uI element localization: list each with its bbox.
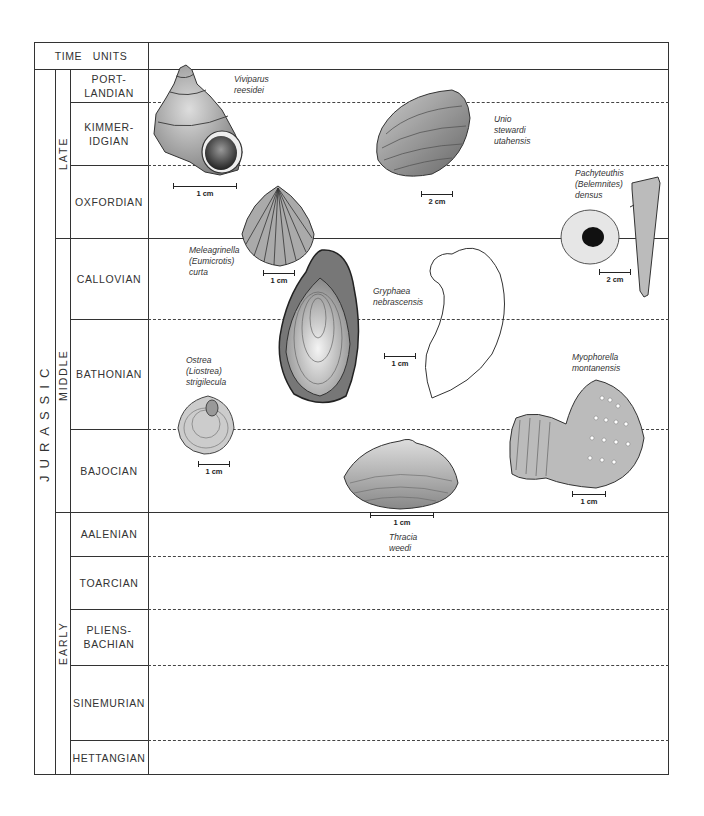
belemnite-guard-illustration	[628, 175, 664, 299]
belemnite-cross-section-illustration	[559, 208, 621, 266]
scale-bar-pachyteuthis: 2 cm	[599, 272, 631, 284]
scale-label: 1 cm	[580, 497, 597, 506]
stage-hettangian: HETTANGIAN	[70, 740, 148, 775]
header-time-units: TIME UNITS	[34, 42, 148, 69]
scale-bar-viviparus: 1 cm	[173, 186, 237, 198]
species-label-gryphaea: Gryphaea nebrascensis	[373, 286, 423, 308]
stage-bajocian: BAJOCIAN	[70, 429, 148, 512]
stage-bathonian: BATHONIAN	[70, 319, 148, 429]
epoch-label-middle: MIDDLE	[55, 238, 70, 512]
epoch-label-early: EARLY	[55, 512, 70, 775]
gryphaea-shell-illustration	[276, 248, 366, 406]
myophorella-shell-illustration	[506, 378, 646, 490]
scale-label: 1 cm	[205, 467, 222, 476]
stage-boundary-dashed	[148, 665, 669, 666]
scale-label: 2 cm	[606, 275, 623, 284]
unio-clam-illustration	[372, 88, 472, 180]
species-label-unio: Unio stewardi utahensis	[494, 114, 530, 147]
epoch-label-late: LATE	[55, 69, 70, 238]
stage-sinemurian: SINEMURIAN	[70, 665, 148, 740]
scale-bar-ostrea: 1 cm	[198, 464, 230, 476]
scale-bar-gryphaea: 1 cm	[384, 356, 416, 368]
species-label-pachyteuthis: Pachyteuthis (Belemnites) densus	[575, 168, 624, 201]
stage-oxfordian: OXFORDIAN	[70, 165, 148, 238]
scale-label: 1 cm	[196, 189, 213, 198]
species-label-myophorella: Myophorella montanensis	[572, 352, 620, 374]
stage-pliensbachian: PLIENS- BACHIAN	[70, 609, 148, 665]
stage-kimmeridgian: KIMMER- IDGIAN	[70, 102, 148, 165]
stage-aalenian: AALENIAN	[70, 512, 148, 556]
ostrea-shell-illustration	[176, 394, 236, 456]
scale-label: 2 cm	[428, 197, 445, 206]
stage-boundary-dashed	[148, 556, 669, 557]
scale-label: 1 cm	[391, 359, 408, 368]
scale-bar-thracia: 1 cm	[370, 515, 434, 527]
species-label-thracia: Thracia weedi	[389, 532, 417, 554]
period-label: JURASSIC	[34, 69, 55, 775]
species-label-ostrea: Ostrea (Liostrea) strigilecula	[186, 355, 226, 388]
stage-boundary-dashed	[148, 609, 669, 610]
stage-callovian: CALLOVIAN	[70, 238, 148, 319]
scale-bar-myophorella: 1 cm	[572, 494, 606, 506]
thracia-shell-illustration	[340, 437, 460, 511]
stage-boundary-dashed	[148, 740, 669, 741]
stage-toarcian: TOARCIAN	[70, 556, 148, 609]
gryphaea-outline-illustration	[412, 244, 508, 400]
species-label-viviparus: Viviparus reesidei	[234, 74, 269, 96]
scale-label: 1 cm	[393, 518, 410, 527]
species-label-meleagrinella: Meleagrinella (Eumicrotis) curta	[189, 245, 240, 278]
stage-boundary-dashed	[148, 319, 669, 320]
scale-bar-unio: 2 cm	[421, 194, 453, 206]
stage-portlandian: PORT- LANDIAN	[70, 69, 148, 102]
